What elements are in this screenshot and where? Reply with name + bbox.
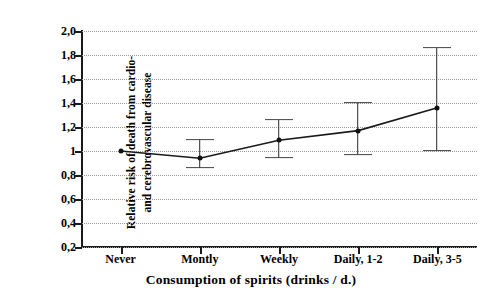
x-axis-tick-label: Daily, 3-5 bbox=[413, 252, 462, 267]
error-bar-cap bbox=[344, 154, 372, 155]
error-bar-cap bbox=[423, 150, 451, 151]
y-axis-tick-label: 0,8 bbox=[40, 169, 76, 181]
data-point bbox=[356, 128, 361, 133]
y-axis-tick-label: 1,4 bbox=[40, 97, 76, 109]
x-axis-title: Consumption of spirits (drinks / d.) bbox=[0, 272, 502, 288]
y-axis-tick-label: 2,0 bbox=[40, 25, 76, 37]
data-point bbox=[118, 149, 123, 154]
y-axis-tick-label: 0,6 bbox=[40, 193, 76, 205]
relative-risk-line-chart: Relative risk of death from cardio- and … bbox=[0, 0, 502, 298]
x-axis-tick-label: Never bbox=[105, 252, 136, 267]
y-axis-tick-label: 1,2 bbox=[40, 121, 76, 133]
y-axis-tick-label: 0,2 bbox=[40, 241, 76, 253]
y-axis-tick-labels: 2,01,81,61,41,210,80,60,40,2 bbox=[40, 0, 76, 298]
error-bar-cap bbox=[265, 157, 293, 158]
data-point bbox=[277, 138, 282, 143]
error-bar-cap bbox=[186, 167, 214, 168]
y-axis-tick-label: 1,6 bbox=[40, 73, 76, 85]
error-bar-cap bbox=[344, 102, 372, 103]
x-axis-tick-labels: NeverMontlyWeeklyDaily, 1-2Daily, 3-5 bbox=[81, 252, 477, 270]
x-axis-tick-label: Daily, 1-2 bbox=[334, 252, 383, 267]
data-point bbox=[197, 156, 202, 161]
x-axis-tick-label: Weekly bbox=[260, 252, 298, 267]
error-bar-cap bbox=[186, 139, 214, 140]
plot-area bbox=[81, 31, 477, 247]
error-bar-line bbox=[437, 48, 438, 151]
x-axis-tick-label: Montly bbox=[181, 252, 218, 267]
error-bar-cap bbox=[423, 47, 451, 48]
error-bar-cap bbox=[265, 119, 293, 120]
y-axis-tick-label: 0,4 bbox=[40, 217, 76, 229]
data-point bbox=[435, 105, 440, 110]
y-axis-tick-label: 1,8 bbox=[40, 49, 76, 61]
y-axis-tick-label: 1 bbox=[40, 145, 76, 157]
error-bar-line bbox=[199, 140, 200, 168]
y-axis-tick-mark bbox=[75, 247, 82, 249]
